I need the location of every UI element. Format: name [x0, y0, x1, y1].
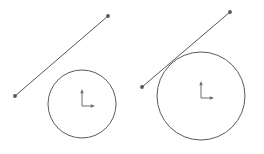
- left-line-end-point: [106, 14, 110, 18]
- right-line-end-point: [228, 10, 232, 14]
- geometry-scene: [0, 0, 264, 154]
- left-line-start-point: [13, 94, 17, 98]
- right-line-start-point: [140, 85, 144, 89]
- canvas-background: [0, 0, 264, 154]
- diagram-canvas: [0, 0, 264, 154]
